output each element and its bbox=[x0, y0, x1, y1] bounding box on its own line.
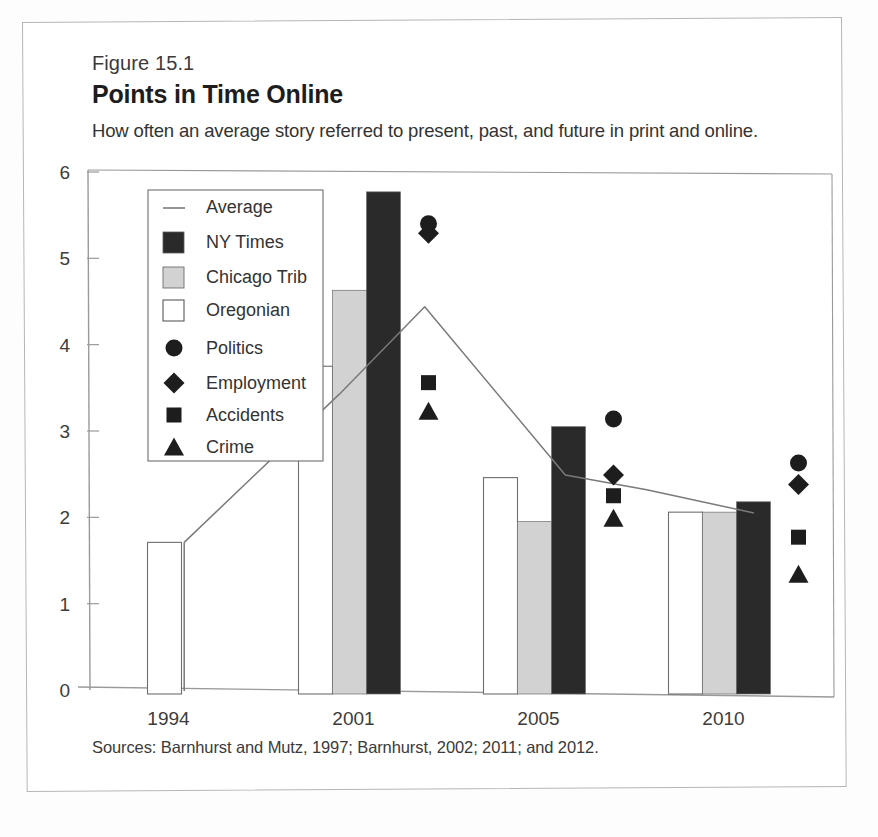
marker-accidents bbox=[606, 488, 621, 503]
legend-swatch-politics bbox=[166, 340, 183, 357]
y-axis-tick-label: 3 bbox=[59, 421, 70, 442]
bar-chicago-trib bbox=[518, 522, 552, 694]
x-axis-tick-label: 2005 bbox=[517, 708, 559, 729]
bar-chicago-trib bbox=[703, 512, 737, 694]
chart-legend: AverageNY TimesChicago TribOregonianPoli… bbox=[148, 190, 323, 461]
bar-ny-times bbox=[552, 427, 586, 694]
marker-accidents bbox=[421, 375, 436, 390]
marker-crime bbox=[604, 509, 624, 527]
y-axis-tick-label: 0 bbox=[59, 680, 70, 701]
bar-oregonian bbox=[669, 512, 703, 694]
legend-swatch-ny-times bbox=[163, 232, 184, 253]
y-axis-tick-label: 4 bbox=[59, 335, 70, 356]
legend-label-crime: Crime bbox=[206, 437, 254, 457]
figure-root: Figure 15.1 Points in Time Online How of… bbox=[0, 0, 878, 837]
legend-label-chicago-trib: Chicago Trib bbox=[206, 267, 307, 287]
legend-swatch-accidents bbox=[167, 408, 182, 423]
legend-label-oregonian: Oregonian bbox=[206, 300, 290, 320]
marker-politics bbox=[790, 454, 807, 471]
y-axis-tick-label: 2 bbox=[59, 507, 70, 528]
y-axis-tick-label: 5 bbox=[59, 248, 70, 269]
legend-swatch-oregonian bbox=[163, 300, 184, 321]
marker-politics bbox=[605, 410, 622, 427]
legend-label-average: Average bbox=[206, 197, 273, 217]
x-axis-tick-label: 2001 bbox=[332, 708, 374, 729]
marker-accidents bbox=[791, 530, 806, 545]
marker-employment bbox=[788, 474, 809, 495]
marker-crime bbox=[419, 402, 439, 420]
chart-plot: 01234561994200120052010 AverageNY TimesC… bbox=[0, 0, 878, 837]
bar-oregonian bbox=[148, 542, 182, 694]
source-note: Sources: Barnhurst and Mutz, 1997; Barnh… bbox=[92, 738, 599, 757]
bar-chicago-trib bbox=[333, 290, 367, 694]
y-axis-tick-label: 6 bbox=[59, 162, 70, 183]
legend-swatch-chicago-trib bbox=[163, 267, 184, 288]
legend-label-employment: Employment bbox=[206, 373, 306, 393]
legend-label-accidents: Accidents bbox=[206, 405, 284, 425]
bar-ny-times bbox=[737, 502, 771, 694]
x-axis-tick-label: 1994 bbox=[147, 708, 190, 729]
legend-label-politics: Politics bbox=[206, 338, 263, 358]
bar-ny-times bbox=[367, 192, 401, 694]
figure-content: Figure 15.1 Points in Time Online How of… bbox=[0, 0, 878, 837]
marker-crime bbox=[789, 565, 809, 583]
x-axis-tick-label: 2010 bbox=[702, 708, 744, 729]
y-axis-tick-label: 1 bbox=[59, 594, 70, 615]
legend-label-ny-times: NY Times bbox=[206, 232, 284, 252]
bar-oregonian bbox=[484, 478, 518, 694]
